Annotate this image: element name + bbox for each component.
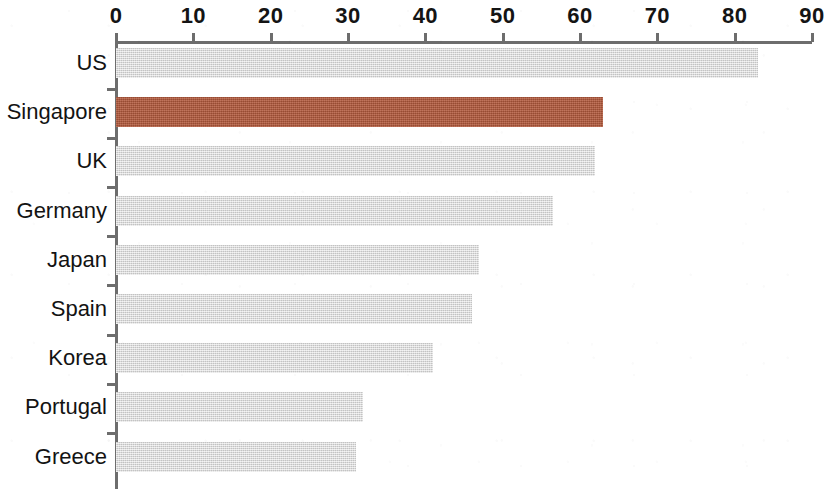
bar[interactable] xyxy=(116,442,356,472)
plot-area: USSingaporeUKGermanyJapanSpainKoreaPortu… xyxy=(0,0,825,490)
bar-category-label: Spain xyxy=(51,296,107,322)
bar-row[interactable]: Korea xyxy=(0,343,825,373)
bar[interactable] xyxy=(116,343,433,373)
bar-row[interactable]: Greece xyxy=(0,442,825,472)
bar-category-label: Singapore xyxy=(7,99,107,125)
bar[interactable] xyxy=(116,196,553,226)
bar-chart: 0102030405060708090 USSingaporeUKGermany… xyxy=(0,0,825,490)
bar-highlighted[interactable] xyxy=(116,97,603,127)
bar-row[interactable]: UK xyxy=(0,146,825,176)
bar[interactable] xyxy=(116,245,479,275)
bar-row[interactable]: Portugal xyxy=(0,392,825,422)
bar-category-label: Japan xyxy=(47,247,107,273)
bar[interactable] xyxy=(116,48,758,78)
bar-category-label: Portugal xyxy=(25,394,107,420)
bar-row[interactable]: Japan xyxy=(0,245,825,275)
bar-category-label: Greece xyxy=(35,444,107,470)
bar-row[interactable]: Germany xyxy=(0,196,825,226)
bar[interactable] xyxy=(116,146,595,176)
bar-category-label: UK xyxy=(76,148,107,174)
bar-category-label: Korea xyxy=(48,345,107,371)
bar-row[interactable]: US xyxy=(0,48,825,78)
bar[interactable] xyxy=(116,392,363,422)
bar-category-label: Germany xyxy=(17,198,107,224)
bar-category-label: US xyxy=(76,50,107,76)
bar-row[interactable]: Spain xyxy=(0,294,825,324)
bar-row[interactable]: Singapore xyxy=(0,97,825,127)
bar[interactable] xyxy=(116,294,472,324)
